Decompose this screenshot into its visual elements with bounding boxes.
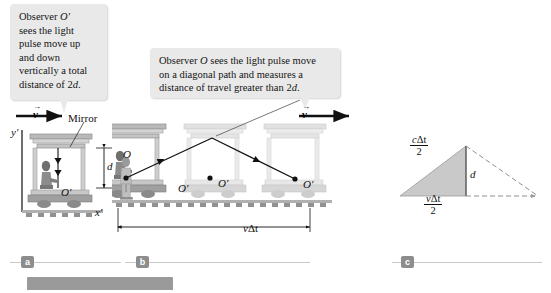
panel-b-displacement-label: vΔt [243, 222, 258, 234]
panel-a-x-axis-label: x′ [95, 206, 102, 218]
panel-a-car-floor [31, 190, 89, 195]
pulse-dot-3 [292, 176, 297, 181]
caption-band [27, 277, 173, 290]
panel-c-rule [392, 262, 542, 263]
panel-a-car-wall-right [81, 148, 85, 192]
panel-c-hypotenuse-label: cΔt 2 [410, 134, 428, 157]
callout-a-symbol-oprime: O′ [60, 11, 70, 22]
panel-c-hyp-denominator: 2 [410, 145, 428, 157]
light-path-diagonal-down [212, 138, 295, 179]
panel-c-badge: c [401, 256, 414, 268]
panel-a-y-axis-label: y′ [11, 126, 18, 138]
panel-c-hyp-numerator: cΔt [410, 134, 428, 145]
panel-a-car-wall-left [33, 148, 37, 192]
figure-canvas: Observer O′ sees the light pulse move up… [0, 0, 551, 293]
light-arrow-2 [54, 170, 61, 176]
panel-a-velocity-label: → v [33, 105, 41, 120]
panel-a-badge: a [21, 256, 34, 268]
panel-b-rule [125, 262, 310, 263]
panel-b-ties [112, 203, 326, 207]
observer-o-prime-figure [40, 161, 58, 189]
panel-c-base-numerator: vΔt [424, 193, 442, 204]
panel-a-ties [26, 213, 92, 217]
pulse-dot-2 [207, 175, 212, 180]
light-arrow-1 [54, 158, 61, 164]
callout-a-line2: sees the light [19, 25, 74, 36]
panel-c-dashed-hypotenuse [466, 146, 538, 196]
panel-b-observer-label-1: O′ [178, 182, 188, 194]
callout-a-line4: and down [19, 52, 60, 63]
callout-b-line3: distance of travel greater than 2d. [159, 82, 300, 93]
panel-b-car-3 [262, 124, 326, 198]
panel-a-wheel-left [37, 200, 51, 208]
panel-b-artwork [112, 100, 364, 245]
mirror-label: Mirror [68, 112, 97, 124]
panel-b-badge: b [136, 256, 149, 268]
mirror-icon [37, 144, 85, 148]
panel-a-observer-label: O′ [61, 186, 71, 198]
callout-observer-o: Observer O sees the light pulse move on … [150, 48, 340, 98]
panel-a-rail [22, 210, 103, 213]
panel-b-observer-label-2: O′ [218, 177, 228, 189]
panel-a-undercarriage [28, 195, 92, 202]
light-path-diagonal-up [126, 138, 212, 178]
panel-b-observer-label-3: O′ [303, 178, 313, 190]
panel-c-height-label: d [470, 168, 476, 180]
pulse-dot-1 [123, 175, 128, 180]
light-arrow-down [253, 156, 262, 165]
callout-b-line1: Observer O sees the light pulse move [159, 55, 316, 66]
panel-b-velocity-label: → v [302, 105, 310, 120]
panel-a-roof-trim [33, 139, 89, 143]
callout-a-line6: distance of 2d. [19, 79, 81, 90]
callout-a-line5: vertically a total [19, 65, 87, 76]
callout-a-line1: Observer O′ [19, 11, 70, 22]
panel-b-ground-observer-label: O [123, 148, 131, 160]
panel-c-base-denominator: 2 [424, 204, 442, 216]
callout-observer-o-prime: Observer O′ sees the light pulse move up… [10, 4, 107, 100]
callout-b-line2: on a diagonal path and measures a [159, 69, 303, 80]
callout-a-line3: pulse move up [19, 38, 80, 49]
panel-c-base-label: vΔt 2 [424, 193, 442, 216]
callout-b-symbol-o: O [200, 55, 208, 66]
panel-b-car-2 [182, 124, 246, 198]
panel-b-rail [112, 200, 332, 203]
panel-a-wheel-right [67, 200, 81, 208]
panel-a-car-roof [30, 134, 92, 139]
